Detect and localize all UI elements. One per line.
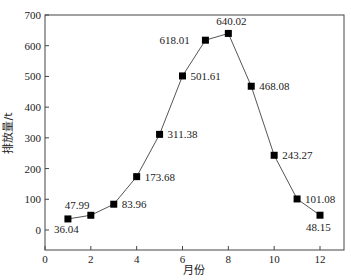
data-label: 311.38 (168, 128, 198, 140)
data-point-marker (248, 83, 255, 90)
data-point-marker (317, 212, 324, 219)
data-point-marker (87, 212, 94, 219)
data-point-marker (225, 30, 232, 37)
data-label: 47.99 (65, 199, 90, 211)
x-tick-label: 0 (42, 253, 48, 265)
data-point-marker (110, 201, 117, 208)
data-point-marker (156, 131, 163, 138)
y-tick-label: 400 (25, 101, 42, 113)
y-axis-title: 排放量/t (1, 112, 15, 154)
x-tick-label: 2 (88, 253, 94, 265)
data-point-marker (294, 195, 301, 202)
data-label: 640.02 (216, 15, 246, 27)
data-label: 173.68 (145, 171, 176, 183)
y-tick-label: 500 (25, 70, 42, 82)
data-label: 468.08 (259, 80, 290, 92)
data-label: 101.08 (305, 193, 336, 205)
x-tick-label: 4 (134, 253, 140, 265)
x-tick-label: 12 (315, 253, 326, 265)
data-label: 36.04 (54, 223, 79, 235)
data-series (64, 30, 323, 223)
x-axis: 024681012 (42, 246, 325, 265)
y-tick-label: 200 (25, 163, 42, 175)
data-label: 618.01 (159, 34, 189, 46)
series-line (68, 33, 320, 219)
data-label: 48.15 (306, 221, 331, 233)
data-labels: 36.0447.9983.96173.68311.38501.61618.016… (54, 15, 336, 235)
y-tick-label: 700 (25, 9, 42, 21)
x-tick-label: 10 (269, 253, 281, 265)
y-tick-label: 100 (25, 193, 42, 205)
y-tick-label: 600 (25, 40, 42, 52)
data-point-marker (179, 72, 186, 79)
y-tick-label: 300 (25, 132, 42, 144)
data-label: 83.96 (122, 198, 147, 210)
x-axis-title: 月份 (183, 264, 205, 277)
data-label: 501.61 (191, 70, 221, 82)
data-label: 243.27 (282, 149, 313, 161)
line-chart: 0100200300400500600700 024681012 36.0447… (0, 0, 351, 280)
data-point-marker (271, 152, 278, 159)
x-tick-label: 8 (226, 253, 232, 265)
data-point-marker (202, 37, 209, 44)
data-point-marker (133, 173, 140, 180)
data-point-marker (64, 215, 71, 222)
y-tick-label: 0 (36, 224, 42, 236)
